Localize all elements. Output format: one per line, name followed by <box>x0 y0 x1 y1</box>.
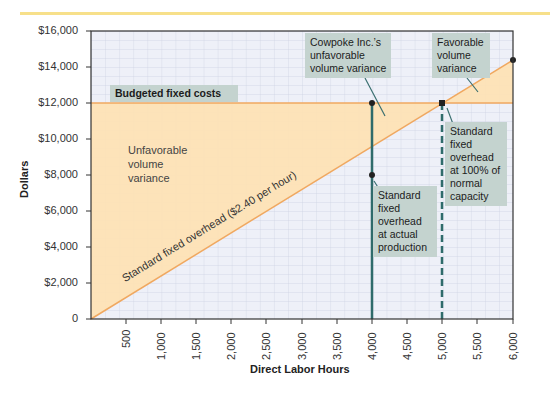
y-tick: 0 <box>8 312 78 324</box>
x-tick: 3,500 <box>331 332 343 360</box>
label-line: unfavorable <box>310 49 386 62</box>
y-tick: $6,000 <box>8 204 78 216</box>
x-tick: 3,000 <box>296 332 308 360</box>
label-line: at 100% of <box>450 164 502 177</box>
x-axis-label: Direct Labor Hours <box>250 363 350 375</box>
x-tick: 1,500 <box>190 332 202 360</box>
y-tick: $16,000 <box>8 24 78 36</box>
y-tick: $4,000 <box>8 240 78 252</box>
y-tick: $10,000 <box>8 132 78 144</box>
label-line: volume <box>128 157 187 171</box>
x-tick: 4,500 <box>401 332 413 360</box>
label-line: Favorable <box>437 36 485 49</box>
standard-at-capacity-callout: Standard fixed overhead at 100% of norma… <box>445 122 507 206</box>
label-line: fixed <box>450 138 502 151</box>
label-line: variance <box>437 62 485 75</box>
y-tick: $14,000 <box>8 60 78 72</box>
y-tick: $2,000 <box>8 276 78 288</box>
label-line: normal <box>450 177 502 190</box>
label-line: volume variance <box>310 62 386 75</box>
x-tick: 1,000 <box>155 332 167 360</box>
label-line: variance <box>128 171 187 185</box>
label-line: capacity <box>450 190 502 203</box>
x-tick: 2,500 <box>260 332 272 360</box>
x-tick: 500 <box>120 330 132 348</box>
label-line: Standard <box>378 189 432 202</box>
unfavorable-variance-label: Unfavorable volume variance <box>128 143 187 185</box>
x-tick: 4,000 <box>366 332 378 360</box>
label-line: at actual <box>378 228 432 241</box>
label-line: Standard <box>450 125 502 138</box>
label-line: overhead <box>378 215 432 228</box>
y-tick: $12,000 <box>8 96 78 108</box>
budgeted-fixed-costs-label: Budgeted fixed costs <box>110 85 238 102</box>
x-tick: 2,000 <box>225 332 237 360</box>
cowpoke-variance-callout: Cowpoke Inc.’s unfavorable volume varian… <box>305 33 391 78</box>
label-line: Cowpoke Inc.’s <box>310 36 386 49</box>
label-line: overhead <box>450 151 502 164</box>
label-line: volume <box>437 49 485 62</box>
x-tick: 5,500 <box>471 332 483 360</box>
x-tick: 6,000 <box>507 332 519 360</box>
x-tick: 5,000 <box>436 332 448 360</box>
label-line: production <box>378 241 432 254</box>
label-line: fixed <box>378 202 432 215</box>
favorable-variance-callout: Favorable volume variance <box>432 33 490 78</box>
standard-at-actual-callout: Standard fixed overhead at actual produc… <box>373 186 437 257</box>
y-axis-label: Dollars <box>18 161 30 198</box>
label-line: Unfavorable <box>128 143 187 157</box>
